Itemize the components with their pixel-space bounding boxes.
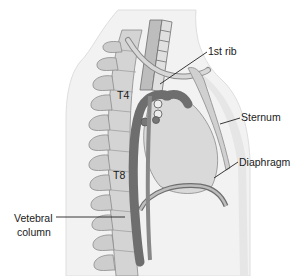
label-t8: T8 — [113, 169, 125, 181]
esophagus — [148, 96, 150, 260]
anatomy-diagram: 1st rib Sternum Diaphragm Vetebral colum… — [0, 0, 305, 276]
label-vertebral-column-line1: Vetebral — [14, 212, 53, 224]
label-sternum: Sternum — [241, 111, 281, 123]
label-t4: T4 — [117, 89, 129, 101]
label-first-rib: 1st rib — [208, 45, 237, 57]
label-vertebral-column-line2: column — [17, 226, 51, 238]
label-diaphragm: Diaphragm — [239, 156, 290, 168]
